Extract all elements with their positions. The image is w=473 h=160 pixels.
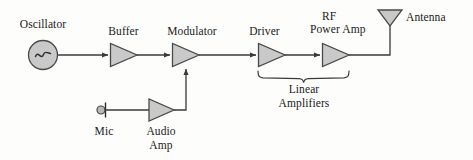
transmitter-block-diagram: Oscillator Buffer Modulator Driver RF Po… [0, 0, 473, 160]
audio-amp-label-line2: Amp [133, 139, 189, 152]
mic-label: Mic [86, 125, 122, 138]
audio-amp-label-line1: Audio [133, 125, 189, 138]
buffer-label: Buffer [100, 25, 147, 38]
buffer-amplifier-symbol [111, 44, 138, 67]
linear-amplifiers-brace [258, 71, 349, 83]
rf-power-amp-amplifier-symbol [323, 44, 350, 67]
signal-path-audio-amp-to-modulator [174, 69, 186, 110]
rf-power-amp-label-line1: RF [322, 10, 392, 23]
oscillator-symbol [29, 41, 58, 70]
linear-amplifiers-label-line2: Amplifiers [262, 97, 346, 110]
driver-amplifier-symbol [259, 44, 286, 67]
antenna-label: Antenna [406, 11, 466, 24]
driver-label: Driver [242, 25, 287, 38]
audio-amp-amplifier-symbol [149, 99, 174, 121]
microphone-symbol [97, 103, 106, 118]
linear-amplifiers-label-line1: Linear [268, 83, 340, 96]
oscillator-label: Oscillator [14, 18, 72, 31]
modulator-label: Modulator [159, 25, 225, 38]
modulator-amplifier-symbol [173, 44, 200, 67]
rf-power-amp-label-line2: Power Amp [310, 23, 390, 36]
